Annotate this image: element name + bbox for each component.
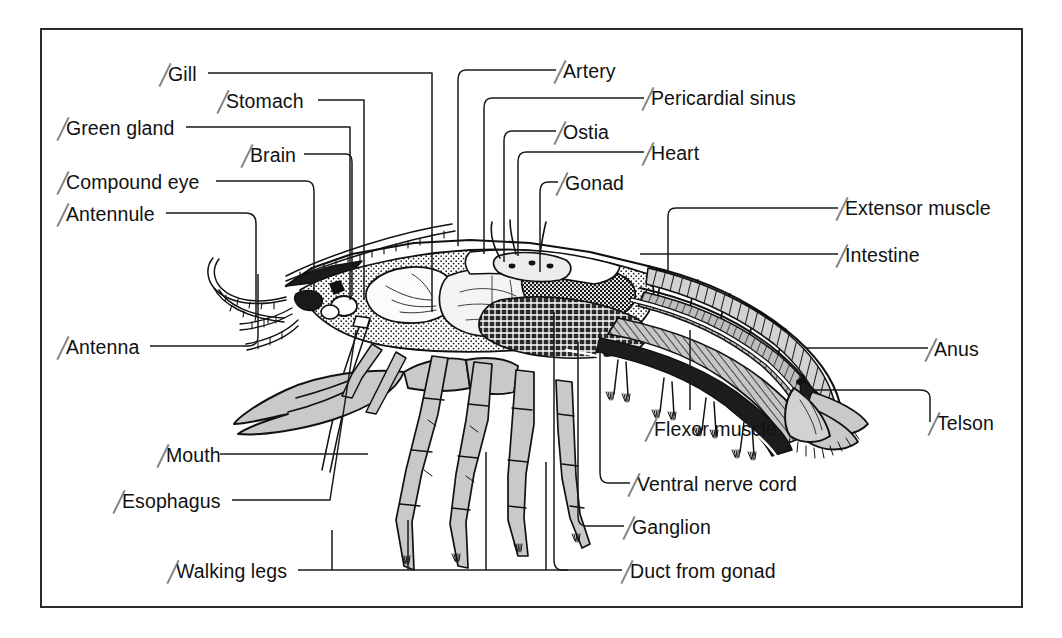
label-anus: Anus	[934, 340, 979, 360]
leader-heart	[518, 152, 644, 256]
label-intestine: Intestine	[845, 246, 920, 266]
label-ostia: Ostia	[563, 123, 609, 143]
label-heart: Heart	[651, 144, 699, 164]
crayfish-anatomy-illustration	[0, 0, 1062, 638]
label-gonad: Gonad	[565, 174, 624, 194]
label-walking-legs: Walking legs	[176, 562, 287, 582]
label-brain: Brain	[250, 146, 296, 166]
label-pericardial-sinus: Pericardial sinus	[651, 89, 796, 109]
label-green-gland: Green gland	[66, 119, 174, 139]
label-compound-eye: Compound eye	[66, 173, 199, 193]
leader-antenna	[150, 274, 258, 346]
label-flexor-muscle: Flexor muscle	[654, 420, 777, 440]
label-ganglion: Ganglion	[632, 518, 711, 538]
label-artery: Artery	[563, 62, 616, 82]
label-antenna: Antenna	[66, 338, 139, 358]
leader-antennule	[166, 213, 256, 316]
label-duct-from-gonad: Duct from gonad	[630, 562, 776, 582]
leader-extensor-muscle	[668, 208, 838, 274]
label-ventral-nerve-cord: Ventral nerve cord	[637, 475, 797, 495]
label-stomach: Stomach	[226, 92, 304, 112]
label-esophagus: Esophagus	[122, 492, 220, 512]
leader-artery	[458, 70, 556, 246]
label-mouth: Mouth	[166, 446, 221, 466]
label-antennule: Antennule	[66, 205, 155, 225]
label-extensor-muscle: Extensor muscle	[845, 199, 991, 219]
label-gill: Gill	[168, 65, 197, 85]
label-telson: Telson	[937, 414, 994, 434]
